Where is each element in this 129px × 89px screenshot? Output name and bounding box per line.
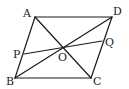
label-A: A xyxy=(22,7,32,20)
segments-group xyxy=(15,17,112,78)
label-B: B xyxy=(6,75,14,88)
label-P: P xyxy=(13,48,21,61)
label-Q: Q xyxy=(105,36,114,49)
parallelogram-diagram: A B C D O P Q xyxy=(0,0,129,89)
label-O: O xyxy=(58,51,67,64)
label-D: D xyxy=(113,5,122,18)
label-C: C xyxy=(93,75,101,88)
